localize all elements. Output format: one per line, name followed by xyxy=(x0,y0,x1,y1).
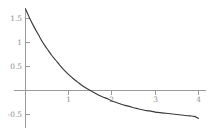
x-tick-label-4: 4 xyxy=(196,95,201,104)
x-tick-label-1: 1 xyxy=(66,95,71,104)
y-tick-label-1: 1 xyxy=(17,38,22,47)
y-tick-label-neg0point5: -0.5 xyxy=(8,110,23,119)
chart-background xyxy=(0,0,215,134)
exponential-decay-chart: 1 2 3 4 -0.5 0.5 1 1.5 xyxy=(0,0,215,134)
x-tick-label-3: 3 xyxy=(153,95,158,104)
y-tick-label-1point5: 1.5 xyxy=(10,14,22,23)
plot-container: 1 2 3 4 -0.5 0.5 1 1.5 xyxy=(0,0,215,134)
y-tick-label-0point5: 0.5 xyxy=(10,62,22,71)
